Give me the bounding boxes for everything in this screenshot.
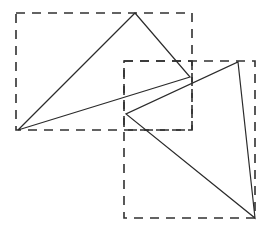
geometry-figure — [0, 0, 271, 232]
dashed-box-left — [16, 13, 192, 130]
dashed-box-middle — [124, 61, 192, 130]
figure-canvas — [0, 0, 271, 232]
triangle-upper-left — [18, 13, 190, 130]
triangle-lower-right — [126, 62, 255, 218]
